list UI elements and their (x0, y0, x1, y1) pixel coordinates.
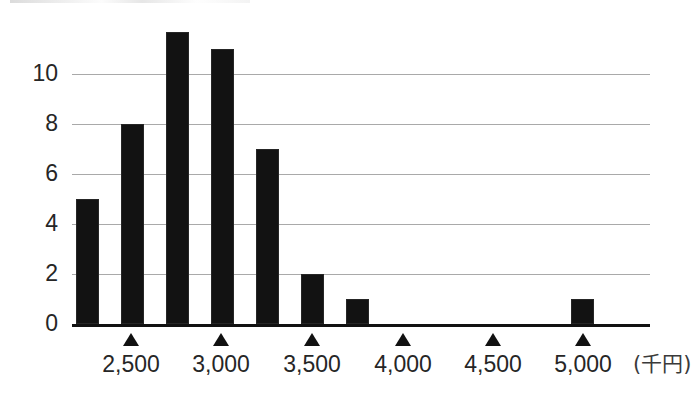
x-axis-marker-3500 (304, 333, 320, 346)
x-axis-baseline (72, 324, 650, 327)
gridline-6 (72, 174, 650, 175)
y-axis-tick-label-6: 6 (14, 162, 58, 185)
x-axis-marker-4500 (485, 333, 501, 346)
plot-area: 10 8 6 4 2 0 2,500 3,000 3,500 4,000 4,5… (0, 0, 700, 410)
x-axis-tick-label-5000: 5,000 (533, 352, 633, 377)
histogram-chart: 10 8 6 4 2 0 2,500 3,000 3,500 4,000 4,5… (0, 0, 700, 410)
x-axis-tick-label-4000: 4,000 (353, 352, 453, 377)
y-axis-tick-label-4: 4 (14, 212, 58, 235)
x-axis-marker-2500 (123, 333, 139, 346)
x-axis-tick-label-4500: 4,500 (443, 352, 543, 377)
x-axis-tick-label-3500: 3,500 (262, 352, 362, 377)
x-axis-marker-3000 (213, 333, 229, 346)
histogram-bar-2500-2750 (121, 124, 144, 324)
y-axis-tick-label-8: 8 (14, 112, 58, 135)
gridline-2 (72, 274, 650, 275)
y-axis-tick-label-10: 10 (14, 62, 58, 85)
histogram-bar-5000-5250 (571, 299, 594, 324)
histogram-bar-2750-3000 (166, 32, 189, 324)
histogram-bar-2250-2500 (76, 199, 99, 324)
gridline-10 (72, 74, 650, 75)
x-axis-unit-label: (千円) (633, 352, 691, 377)
gridline-4 (72, 224, 650, 225)
histogram-bar-3000-3250 (211, 49, 234, 324)
histogram-bar-3250-3500 (256, 149, 279, 324)
x-axis-tick-label-3000: 3,000 (171, 352, 271, 377)
x-axis-marker-4000 (395, 333, 411, 346)
histogram-bar-3750-4000 (346, 299, 369, 324)
y-axis-tick-label-0: 0 (14, 312, 58, 335)
x-axis-tick-label-2500: 2,500 (81, 352, 181, 377)
gridline-8 (72, 124, 650, 125)
y-axis-tick-label-2: 2 (14, 262, 58, 285)
histogram-bar-3500-3750 (301, 274, 324, 324)
x-axis-marker-5000 (575, 333, 591, 346)
